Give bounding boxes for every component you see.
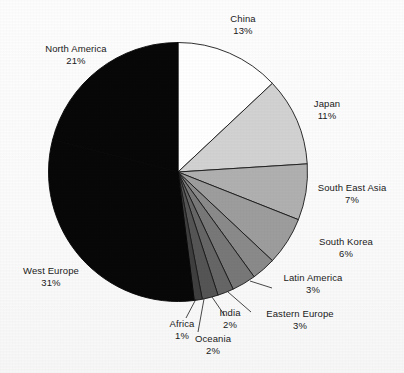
slice-label-south-korea-name: South Korea xyxy=(306,236,386,248)
pie-chart-figure: China 13% North America 21% Japan 11% So… xyxy=(0,0,404,373)
slice-label-west-europe-percent: 31% xyxy=(9,277,93,289)
slice-label-oceania-percent: 2% xyxy=(185,345,241,357)
slice-label-india-percent: 2% xyxy=(209,319,251,331)
slice-label-south-korea: South Korea 6% xyxy=(306,236,386,259)
slice-label-north-america: North America 21% xyxy=(22,43,130,66)
slice-label-south-korea-percent: 6% xyxy=(306,248,386,260)
slice-label-oceania: Oceania 2% xyxy=(185,333,241,356)
slice-label-south-east-asia: South East Asia 7% xyxy=(306,182,398,205)
slice-label-west-europe: West Europe 31% xyxy=(9,265,93,288)
slice-label-japan-percent: 11% xyxy=(300,110,354,122)
slice-label-africa-name: Africa xyxy=(158,318,206,330)
slice-label-west-europe-name: West Europe xyxy=(9,265,93,277)
slice-label-eastern-europe-name: Eastern Europe xyxy=(254,308,346,320)
slice-label-latin-america-percent: 3% xyxy=(271,284,355,296)
pie-slices-group xyxy=(49,43,308,302)
slice-label-china-percent: 13% xyxy=(213,25,273,37)
slice-label-latin-america-name: Latin America xyxy=(271,272,355,284)
slice-label-china: China 13% xyxy=(213,13,273,36)
slice-label-india-name: India xyxy=(209,307,251,319)
slice-label-japan-name: Japan xyxy=(300,98,354,110)
slice-label-south-east-asia-percent: 7% xyxy=(306,194,398,206)
slice-label-north-america-name: North America xyxy=(22,43,130,55)
slice-label-eastern-europe-percent: 3% xyxy=(254,320,346,332)
slice-label-south-east-asia-name: South East Asia xyxy=(306,182,398,194)
leader-line-latin-america xyxy=(250,281,272,288)
slice-label-india: India 2% xyxy=(209,307,251,330)
slice-label-oceania-name: Oceania xyxy=(185,333,241,345)
slice-label-eastern-europe: Eastern Europe 3% xyxy=(254,308,346,331)
slice-label-japan: Japan 11% xyxy=(300,98,354,121)
slice-label-north-america-percent: 21% xyxy=(22,55,130,67)
slice-label-latin-america: Latin America 3% xyxy=(271,272,355,295)
leader-line-africa xyxy=(186,299,196,318)
slice-label-china-name: China xyxy=(213,13,273,25)
